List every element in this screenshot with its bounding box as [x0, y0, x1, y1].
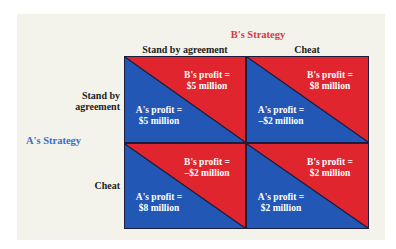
column-header-cheat: Cheat — [246, 44, 368, 55]
row-header-line1: Stand by — [60, 90, 120, 101]
a-profit-label: A's profit = — [129, 192, 189, 203]
a-profit-value: $2 million — [251, 203, 311, 214]
a-profit-value: $8 million — [129, 203, 189, 214]
b-profit-label: B's profit = — [300, 157, 360, 168]
payoff-grid: B's profit = $5 million A's profit = $5 … — [124, 56, 369, 229]
cell-stand-cheat: B's profit = $8 million A's profit = –$2… — [247, 57, 368, 142]
a-profit-label: A's profit = — [129, 105, 189, 116]
row-header-stand-by-agreement: Stand by agreement — [60, 90, 120, 112]
b-strategy-title: B's Strategy — [218, 29, 298, 40]
row-header-cheat: Cheat — [60, 180, 120, 191]
b-profit: B's profit = $5 million — [177, 70, 237, 92]
a-profit-value: –$2 million — [251, 116, 311, 127]
b-profit-value: –$2 million — [177, 168, 237, 179]
b-profit: B's profit = –$2 million — [177, 157, 237, 179]
b-profit-label: B's profit = — [300, 70, 360, 81]
a-profit: A's profit = $5 million — [129, 105, 189, 127]
b-profit: B's profit = $8 million — [300, 70, 360, 92]
cell-stand-stand: B's profit = $5 million A's profit = $5 … — [125, 57, 245, 142]
a-profit: A's profit = –$2 million — [251, 105, 311, 127]
cell-cheat-cheat: B's profit = $2 million A's profit = $2 … — [247, 144, 368, 228]
b-profit: B's profit = $2 million — [300, 157, 360, 179]
a-profit-label: A's profit = — [251, 192, 311, 203]
b-profit-label: B's profit = — [177, 157, 237, 168]
a-profit: A's profit = $8 million — [129, 192, 189, 214]
b-profit-value: $8 million — [300, 81, 360, 92]
a-strategy-title: A's Strategy — [26, 135, 81, 146]
b-profit-value: $5 million — [177, 81, 237, 92]
cell-cheat-stand: B's profit = –$2 million A's profit = $8… — [125, 144, 245, 228]
row-header-line2: agreement — [60, 101, 120, 112]
a-profit-label: A's profit = — [251, 105, 311, 116]
a-profit: A's profit = $2 million — [251, 192, 311, 214]
a-profit-value: $5 million — [129, 116, 189, 127]
b-profit-label: B's profit = — [177, 70, 237, 81]
column-header-stand-by-agreement: Stand by agreement — [124, 44, 246, 55]
b-profit-value: $2 million — [300, 168, 360, 179]
row-header-line1: Cheat — [60, 180, 120, 191]
